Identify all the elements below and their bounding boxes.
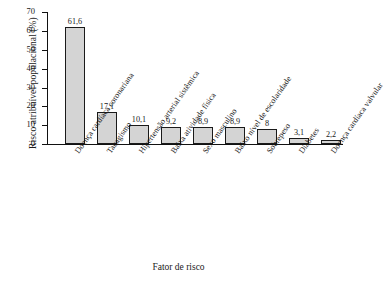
y-tick-label: 50: [27, 44, 36, 54]
bar-value-label: 61,6: [68, 17, 82, 26]
plot-area: 0 10 20 30 40 50 60 70 61,6 17,1 10,1 9,…: [47, 12, 343, 145]
y-tick-label: 70: [27, 6, 36, 16]
y-tick: 60: [42, 31, 47, 32]
y-tick: 20: [42, 106, 47, 107]
y-tick: 50: [42, 50, 47, 51]
x-tick-label: Doença cardíaca valvular: [329, 81, 385, 155]
y-tick: 0: [42, 144, 47, 145]
y-tick-label: 20: [27, 100, 36, 110]
bar-value-label: 2,2: [326, 130, 336, 139]
y-axis-line: [47, 12, 48, 145]
bar-value-label: 8: [265, 119, 269, 128]
y-tick-label: 0: [31, 138, 35, 148]
bar-value-label: 3,1: [294, 128, 304, 137]
x-axis-line: [47, 144, 343, 145]
y-tick-label: 40: [27, 63, 36, 73]
y-tick-label: 10: [27, 119, 36, 129]
y-tick-label: 60: [27, 25, 36, 35]
bar-value-label: 10,1: [132, 115, 146, 124]
bar: 61,6: [65, 27, 85, 144]
y-tick: 40: [42, 69, 47, 70]
x-axis-title: Fator de risco: [0, 262, 357, 272]
y-tick: 30: [42, 88, 47, 89]
y-tick: 70: [42, 12, 47, 13]
y-tick-label: 30: [27, 82, 36, 92]
y-tick: 10: [42, 125, 47, 126]
